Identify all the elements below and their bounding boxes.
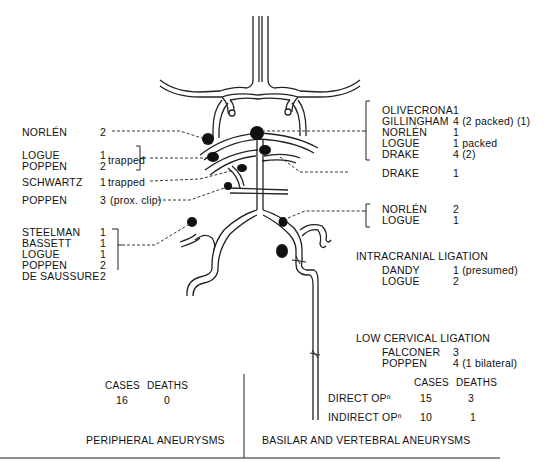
label-name: POPPEN xyxy=(22,160,67,172)
basilar-row-cases: 15 xyxy=(420,392,432,404)
label-count: 4 (1 bilateral) xyxy=(453,357,517,369)
label-count: 4 (2) xyxy=(453,148,476,160)
vessel-diagram xyxy=(0,0,548,462)
label-name: POPPEN xyxy=(22,194,67,206)
label-name: POPPEN xyxy=(382,357,427,369)
basilar-row-label: INDIRECT OPⁿ xyxy=(328,411,402,423)
peripheral-deaths-header: DEATHS xyxy=(147,380,188,392)
intracranial-title: INTRACRANIAL LIGATION xyxy=(356,250,488,262)
peripheral-deaths-value: 0 xyxy=(164,394,170,406)
basilar-row-deaths: 1 xyxy=(470,411,476,423)
low-cervical-title: LOW CERVICAL LIGATION xyxy=(356,332,490,344)
label-count: 1 xyxy=(453,167,459,179)
label-count: 2 xyxy=(453,275,459,287)
label-name: SCHWARTZ xyxy=(22,176,83,188)
label-count: 1 xyxy=(453,214,459,226)
label-note: trapped xyxy=(108,176,145,188)
label-count: 4 (2 packed) (1) xyxy=(453,115,530,127)
peripheral-cases-header: CASES xyxy=(105,380,140,392)
label-count: 2 xyxy=(100,160,106,172)
basilar-deaths-header: DEATHS xyxy=(456,377,497,389)
label-name: DRAKE xyxy=(382,148,419,160)
label-name: DE SAUSSURE xyxy=(22,270,99,282)
label-count: 3 xyxy=(100,194,106,206)
peripheral-title: PERIPHERAL ANEURYSMS xyxy=(86,434,225,446)
basilar-title: BASILAR AND VERTEBRAL ANEURYSMS xyxy=(262,434,471,446)
basilar-row-label: DIRECT OPⁿ xyxy=(328,392,391,404)
label-count: 2 xyxy=(100,270,106,282)
basilar-row-deaths: 3 xyxy=(468,392,474,404)
label-name: DRAKE xyxy=(382,167,419,179)
label-count: 2 xyxy=(100,126,106,138)
label-name: NORLÉN xyxy=(22,126,67,138)
peripheral-cases-value: 16 xyxy=(116,394,128,406)
basilar-cases-header: CASES xyxy=(414,377,449,389)
label-name: LOGUE xyxy=(382,275,420,287)
label-note: (prox. clip) xyxy=(110,194,161,206)
label-count: 1 (presumed) xyxy=(453,264,518,276)
label-name: LOGUE xyxy=(382,214,420,226)
label-note: trapped xyxy=(108,154,145,166)
label-count: 1 xyxy=(100,176,106,188)
basilar-row-cases: 10 xyxy=(420,411,432,423)
